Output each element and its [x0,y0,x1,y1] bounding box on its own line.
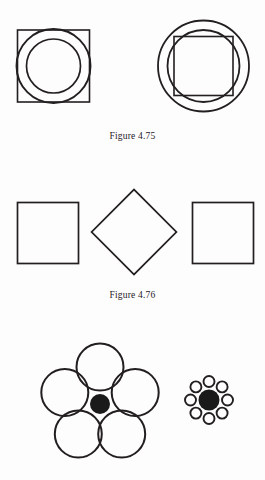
surround-circle-small [204,413,215,424]
outer-circle-475-left [17,29,91,103]
large-surround-cluster [41,344,158,458]
figures-canvas [0,0,265,480]
surround-circle-large [98,411,145,458]
caption-figure-476: Figure 4.76 [0,290,265,300]
surround-circle-small [217,408,228,419]
surround-circle-small [190,381,201,392]
inner-square-475-right [174,37,233,96]
outer-square-475-left [18,30,90,102]
center-circle-filled-large-cluster [90,394,110,414]
surround-circle-large [77,344,124,391]
surround-circle-large [112,369,159,416]
inner-circle-475-left [27,39,81,93]
figure-476-row [18,190,254,275]
surround-circle-small [185,395,196,406]
two-concentric-circles-with-square [158,21,249,112]
square-right-476 [193,203,254,264]
inner-circle-475-right [168,30,240,102]
square-left-476 [18,203,79,264]
surround-circle-small [190,408,201,419]
caption-figure-475: Figure 4.75 [0,131,265,141]
surround-circle-small [217,381,228,392]
diamond-center-476 [92,190,177,275]
figure-page: Figure 4.75 Figure 4.76 [0,0,265,480]
surround-circle-small [204,376,215,387]
center-circle-filled-small-cluster [199,390,220,411]
square-with-two-concentric-circles [17,29,91,103]
small-surround-cluster [185,376,233,424]
surround-circle-large [41,369,88,416]
surround-circle-large [55,411,102,458]
surround-circle-small [222,395,233,406]
outer-circle-475-right [158,21,249,112]
